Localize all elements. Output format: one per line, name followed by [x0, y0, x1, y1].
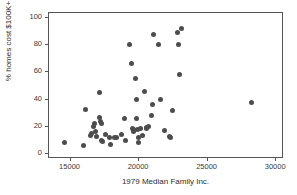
y-tick-label: 20: [34, 122, 42, 130]
y-tick-mark: [45, 17, 49, 18]
y-tick-label: 40: [34, 95, 42, 103]
data-point: [127, 42, 132, 47]
data-point: [149, 113, 154, 118]
plot-area: 020406080100 15000200002500030000: [48, 12, 283, 158]
y-tick-label: 80: [34, 40, 42, 48]
data-point: [158, 97, 163, 102]
data-point: [62, 140, 67, 145]
data-point: [168, 135, 173, 140]
data-point: [140, 133, 145, 138]
data-point: [92, 121, 97, 126]
data-point: [146, 124, 151, 129]
data-point: [177, 72, 182, 77]
data-point: [99, 121, 104, 126]
scatter-chart-figure: 020406080100 15000200002500030000 % home…: [0, 0, 297, 195]
data-point: [134, 116, 139, 121]
x-tick-mark: [275, 157, 276, 161]
x-axis-title: 1979 Median Family Inc.: [48, 178, 283, 186]
data-point: [123, 138, 128, 143]
data-point: [249, 100, 254, 105]
y-tick-mark: [45, 44, 49, 45]
data-point: [93, 129, 98, 134]
data-point: [107, 135, 112, 140]
x-tick-mark: [138, 157, 139, 161]
y-tick-mark: [45, 99, 49, 100]
data-point: [129, 61, 134, 66]
data-point: [133, 76, 138, 81]
data-points-layer: [49, 13, 282, 157]
data-point: [151, 32, 156, 37]
data-point: [150, 102, 155, 107]
data-point: [156, 42, 161, 47]
x-tick-mark: [70, 157, 71, 161]
data-point: [136, 140, 141, 145]
data-point: [83, 107, 88, 112]
y-tick-label: 100: [29, 13, 42, 21]
x-tick-label: 30000: [265, 163, 286, 171]
y-tick-mark: [45, 71, 49, 72]
data-point: [138, 126, 143, 131]
x-tick-label: 25000: [196, 163, 217, 171]
y-tick-mark: [45, 126, 49, 127]
data-point: [97, 90, 102, 95]
data-point: [176, 42, 181, 47]
y-tick-mark: [45, 153, 49, 154]
data-point: [100, 139, 105, 144]
x-tick-mark: [207, 157, 208, 161]
y-tick-label: 0: [38, 149, 42, 157]
data-point: [134, 97, 139, 102]
data-point: [108, 142, 113, 147]
data-point: [179, 26, 184, 31]
x-tick-label: 15000: [59, 163, 80, 171]
data-point: [119, 132, 124, 137]
y-axis-title: % homes cost $100K+: [5, 0, 13, 106]
y-tick-label: 60: [34, 68, 42, 76]
data-point: [142, 89, 147, 94]
x-tick-label: 20000: [128, 163, 149, 171]
data-point: [170, 108, 175, 113]
data-point: [122, 116, 127, 121]
data-point: [81, 143, 86, 148]
data-point: [162, 128, 167, 133]
